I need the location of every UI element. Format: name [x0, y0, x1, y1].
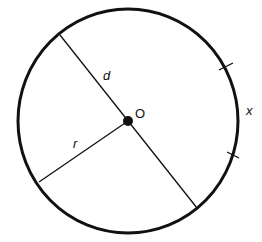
- radius-line: [39, 121, 128, 182]
- center-label: O: [135, 106, 145, 121]
- circle-diagram: d O r x: [0, 0, 262, 242]
- center-point: [123, 116, 133, 126]
- diameter-label: d: [103, 68, 111, 83]
- arc-label: x: [245, 103, 253, 118]
- radius-label: r: [73, 136, 78, 151]
